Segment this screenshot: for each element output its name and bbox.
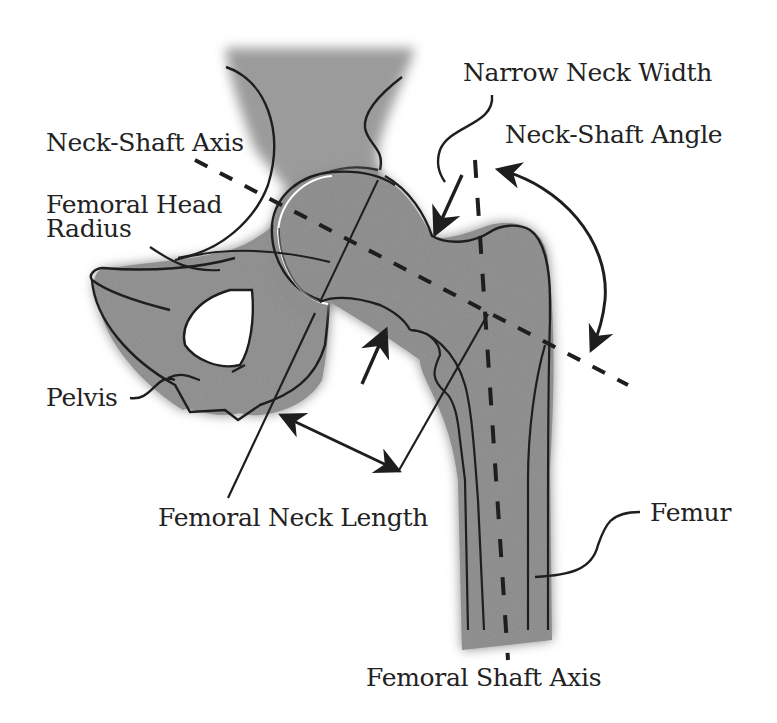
neck-length-arrow xyxy=(283,416,397,470)
label-femoral-head-radius-line2: Radius xyxy=(46,216,131,242)
label-neck-shaft-angle: Neck-Shaft Angle xyxy=(505,122,722,148)
label-femoral-shaft-axis: Femoral Shaft Axis xyxy=(366,665,601,691)
hip-anatomy-diagram xyxy=(0,0,777,723)
label-neck-shaft-axis: Neck-Shaft Axis xyxy=(46,130,244,156)
label-femur: Femur xyxy=(650,500,731,526)
femur-shape xyxy=(273,171,554,650)
label-narrow-neck-width: Narrow Neck Width xyxy=(463,60,712,86)
label-femoral-neck-length: Femoral Neck Length xyxy=(158,505,428,531)
label-pelvis: Pelvis xyxy=(46,385,118,411)
